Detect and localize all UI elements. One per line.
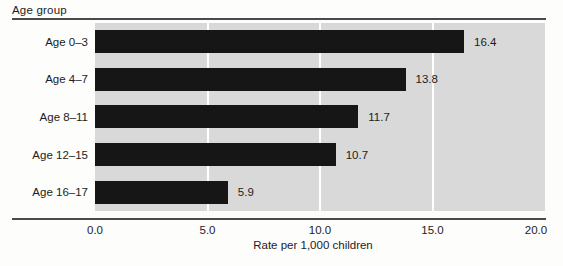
value-label: 10.7: [346, 149, 368, 161]
bar-row: Age 8–1111.7: [0, 98, 563, 136]
value-label: 5.9: [238, 186, 254, 198]
bar-row: Age 0–316.4: [0, 23, 563, 61]
bar: [95, 30, 464, 53]
x-axis-line: [12, 218, 546, 220]
value-label: 13.8: [416, 73, 438, 85]
x-tick-label: 0.0: [87, 224, 103, 236]
value-label: 11.7: [368, 111, 390, 123]
bar-row: Age 16–175.9: [0, 173, 563, 211]
bar-row: Age 12–1510.7: [0, 136, 563, 174]
category-label: Age 0–3: [0, 36, 95, 48]
bar-rows: Age 0–316.4Age 4–713.8Age 8–1111.7Age 12…: [0, 23, 563, 211]
x-tick-label: 15.0: [421, 224, 443, 236]
bar: [95, 105, 358, 128]
x-axis-title: Rate per 1,000 children: [253, 239, 373, 251]
x-tick-label: 10.0: [309, 224, 331, 236]
bar-chart-figure: Age group Age 0–316.4Age 4–713.8Age 8–11…: [0, 0, 563, 266]
x-tick-label: 5.0: [200, 224, 216, 236]
x-tick-label: 20.0: [525, 224, 547, 236]
category-label: Age 12–15: [0, 149, 95, 161]
header-rule: [12, 18, 546, 20]
y-axis-group-label: Age group: [12, 4, 67, 16]
category-label: Age 16–17: [0, 186, 95, 198]
bar: [95, 143, 336, 166]
value-label: 16.4: [474, 36, 496, 48]
category-label: Age 8–11: [0, 111, 95, 123]
category-label: Age 4–7: [0, 73, 95, 85]
bar: [95, 68, 406, 91]
bar: [95, 181, 228, 204]
bar-row: Age 4–713.8: [0, 61, 563, 99]
